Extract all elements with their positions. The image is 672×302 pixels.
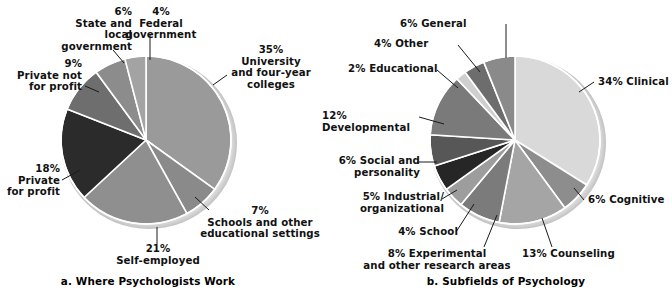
leader-educational (437, 70, 458, 88)
label-state-and-local-government: 6% State and local government (28, 6, 132, 52)
label-federal-government: 4% Federal government (118, 6, 204, 41)
panel-where-psychologists-work: 6% State and local government 4% Federal… (0, 0, 336, 302)
panel-subfields-of-psychology: 6% General 4% Other 2% Educational 12% D… (336, 0, 672, 302)
label-experimental-and-other-research-areas: 8% Experimental and other research areas (356, 248, 518, 271)
pie-b-slices (430, 56, 600, 224)
leader-other (458, 45, 480, 72)
label-schools-and-other-educational-settings: 7% Schools and other educational setting… (196, 205, 324, 240)
label-self-employed: 21% Self-employed (108, 243, 208, 266)
pie-a-slices (61, 56, 231, 224)
label-developmental: 12% Developmental (322, 110, 422, 133)
figure-two-pie-charts: 6% State and local government 4% Federal… (0, 0, 672, 302)
label-clinical: 34% Clinical (598, 76, 672, 88)
label-social-and-personality: 6% Social and personality (332, 155, 420, 178)
label-general: 6% General (400, 18, 510, 30)
label-private-for-profit: 18% Private for profit (0, 163, 60, 198)
label-cognitive: 6% Cognitive (588, 194, 672, 206)
label-other: 4% Other (374, 38, 460, 50)
label-educational: 2% Educational (348, 63, 440, 75)
label-private-not-for-profit: 9% Private not for profit (0, 58, 82, 93)
label-university-and-four-year-colleges: 35% University and four-year colleges (219, 44, 323, 90)
caption-panel-a: a. Where Psychologists Work (18, 275, 278, 287)
label-school: 4% School (360, 226, 458, 238)
label-industrial-organizational: 5% Industrial/ organizational (330, 191, 444, 214)
caption-panel-b: b. Subfields of Psychology (386, 275, 626, 287)
label-counseling: 13% Counseling (522, 248, 632, 260)
